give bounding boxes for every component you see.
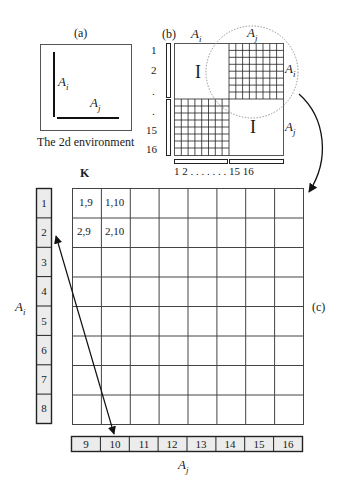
row-bar-6: 6 <box>37 345 51 356</box>
b-top-ai-base: A <box>191 26 199 41</box>
b-top-aj-sub: j <box>255 33 258 43</box>
col-bar-14: 14 <box>216 439 244 450</box>
b-row-label-16: 16 <box>146 144 157 155</box>
c-row-axis-ai: Ai <box>15 300 25 317</box>
col-bar-10: 10 <box>101 439 129 450</box>
ai-sub: i <box>66 82 69 92</box>
panel-b-label: (b) <box>162 28 176 40</box>
b-right-ai-sub: i <box>293 69 296 79</box>
panel-b-top-aj: Aj <box>247 26 257 43</box>
panel-a-label: (a) <box>74 27 87 39</box>
b-row-label-dot2: . <box>152 106 155 117</box>
c-ai-base: A <box>15 299 23 314</box>
row-bar-8: 8 <box>37 403 51 414</box>
col-bar-13: 13 <box>187 439 215 450</box>
b-row-label-2: 2 <box>151 65 157 76</box>
panel-c-label: (c) <box>312 301 325 313</box>
col-bar-12: 12 <box>158 439 186 450</box>
panel-b-right-ai: Ai <box>285 62 295 79</box>
row-bar-7: 7 <box>37 374 51 385</box>
row-bar-3: 3 <box>37 257 51 268</box>
k-cell-2-9: 2,9 <box>77 226 91 237</box>
c-aj-base: A <box>178 457 186 472</box>
panel-a-aj-label: Aj <box>90 96 100 113</box>
k-cell-1-10: 1,10 <box>105 197 124 208</box>
row-bar-1: 1 <box>37 198 51 209</box>
c-aj-sub: j <box>186 465 189 475</box>
b-top-aj-base: A <box>247 25 255 40</box>
row-bar-5: 5 <box>37 316 51 327</box>
row-bar-2: 2 <box>37 227 51 238</box>
panel-b-right-aj: Aj <box>285 120 295 137</box>
col-bar-15: 15 <box>245 439 273 450</box>
k-cell-2-10: 2,10 <box>105 226 124 237</box>
b-col-labels: 1 2 . . . . . . . 15 16 <box>174 166 254 177</box>
b-right-ai-base: A <box>285 61 293 76</box>
b-row-label-15: 15 <box>146 125 157 136</box>
k-matrix-grid <box>73 189 304 425</box>
b-right-aj-base: A <box>285 119 293 134</box>
c-ai-sub: i <box>23 307 26 317</box>
aj-base: A <box>90 95 98 110</box>
identity-top: I <box>195 63 201 81</box>
panel-a-ai-label: Ai <box>58 75 68 92</box>
ai-base: A <box>58 74 66 89</box>
panel-a-caption: The 2d environment <box>37 136 134 148</box>
double-arrow <box>56 236 114 434</box>
col-bar-16: 16 <box>274 439 302 450</box>
col-bar-11: 11 <box>130 439 158 450</box>
b-row-label-1: 1 <box>151 45 157 56</box>
k-matrix-label: K <box>80 167 89 179</box>
identity-bottom: I <box>250 118 256 136</box>
k-cell-1-9: 1,9 <box>79 197 93 208</box>
b-right-aj-sub: j <box>293 127 296 137</box>
row-bar <box>37 189 52 424</box>
aj-sub: j <box>98 103 101 113</box>
b-top-ai-sub: i <box>199 34 202 44</box>
panel-b-matrix <box>167 26 299 164</box>
c-col-axis-aj: Aj <box>178 458 188 475</box>
row-bar-4: 4 <box>37 286 51 297</box>
curved-arrow <box>299 94 322 192</box>
panel-b-top-ai: Ai <box>191 27 201 44</box>
panel-a-frame <box>41 45 132 131</box>
b-row-label-dot1: . <box>152 86 155 97</box>
col-bar-9: 9 <box>72 439 100 450</box>
